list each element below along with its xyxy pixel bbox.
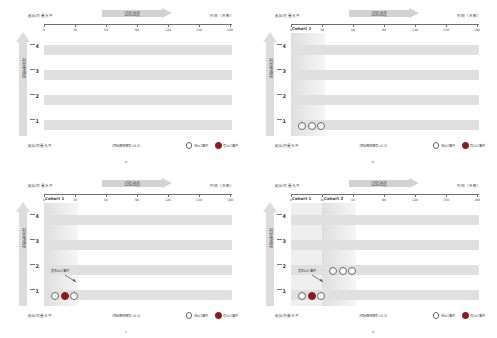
dose-tick-2: [275, 263, 283, 265]
x-tick-60: 60: [104, 28, 108, 32]
panel-a-footer-center: （目标毒性概率=0.3）: [110, 143, 142, 148]
subject-marker: [70, 292, 78, 300]
filled-circle-icon: [462, 312, 468, 318]
panel-c-letter: c: [6, 330, 246, 334]
x-tick-30: 30: [73, 28, 77, 32]
x-tick-30: 30: [320, 28, 324, 32]
panel-b-time-label: 时间（天数）: [457, 13, 481, 18]
panel-b-dose-arrow: 剂量递增: [263, 32, 277, 136]
dose-level-label-2: 2: [283, 263, 286, 269]
dose-tick-2: [28, 263, 36, 265]
dose-arrow-body: [19, 211, 27, 306]
legend-item-dlt: 有DLT事件: [215, 142, 238, 148]
panel-c-progress-arrow: 试验进度: [102, 178, 176, 189]
x-tick-60: 60: [104, 198, 108, 202]
dose-level-label-1: 1: [283, 118, 286, 124]
panel-c-plot: Cohort 1 0 30 60 90 120 150 180 1 2 3 4: [44, 194, 232, 306]
dose-level-label-3: 3: [36, 68, 39, 74]
progress-arrow-head: [162, 8, 172, 18]
dose-level-label-4: 4: [283, 213, 286, 219]
panel-b-legend: 无DLT事件 有DLT事件: [433, 142, 485, 148]
legend-item-no-dlt: 无DLT事件: [433, 312, 456, 318]
x-tick-0: 0: [290, 198, 292, 202]
x-tick-0: 0: [43, 198, 45, 202]
x-tick-90: 90: [135, 198, 139, 202]
x-tick-180: 180: [474, 28, 480, 32]
panel-a-plot: 0 30 60 90 120 150 180 1 2 3 4: [44, 24, 232, 136]
dose-level-label-3: 3: [283, 238, 286, 244]
dose-row-1: [44, 120, 232, 130]
subject-marker: [51, 292, 59, 300]
figure-sheet: 起始剂量水平 试验进度 时间（天数） 剂量递增 0 30 60 90 120 1…: [0, 0, 497, 338]
legend-label-no-dlt: 无DLT事件: [194, 143, 209, 148]
subject-marker: [339, 267, 347, 275]
progress-arrow-head: [409, 8, 419, 18]
panel-d-time-label: 时间（天数）: [457, 183, 481, 188]
dose-level-label-1: 1: [283, 288, 286, 294]
legend-item-dlt: 有DLT事件: [215, 312, 238, 318]
x-tick-150: 150: [443, 198, 449, 202]
x-tick-150: 150: [196, 28, 202, 32]
panel-a-header-left: 起始剂量水平: [28, 13, 53, 18]
subject-marker: [329, 267, 337, 275]
cohort-label-2: Cohort 2: [324, 196, 343, 201]
dose-level-label-1: 1: [36, 118, 39, 124]
x-tick-90: 90: [382, 198, 386, 202]
x-tick-120: 120: [165, 198, 171, 202]
cohort-label-1: Cohort 1: [292, 26, 311, 31]
x-tick-180: 180: [474, 198, 480, 202]
dose-row-3: [44, 70, 232, 80]
progress-arrow-head: [409, 178, 419, 188]
panel-c-footer-center: （目标毒性概率=0.3）: [110, 313, 142, 318]
subject-marker: [298, 292, 306, 300]
dose-level-label-4: 4: [36, 213, 39, 219]
subject-marker: [317, 122, 325, 130]
panel-a-progress-label: 试验进度: [102, 10, 162, 17]
dose-tick-2: [275, 93, 283, 95]
dose-row-2: [291, 95, 479, 105]
dose-row-4: [291, 45, 479, 55]
panel-c-footer-left: 起始剂量水平: [28, 313, 52, 318]
dose-tick-4: [28, 43, 36, 45]
dose-row-4: [44, 215, 232, 225]
subject-group-dose-2: [329, 267, 356, 275]
open-circle-icon: [186, 312, 192, 318]
dose-level-label-2: 2: [36, 263, 39, 269]
dose-tick-4: [275, 43, 283, 45]
x-axis: [291, 24, 479, 25]
x-tick-150: 150: [196, 198, 202, 202]
dose-level-label-2: 2: [283, 93, 286, 99]
open-circle-icon: [433, 312, 439, 318]
dlt-annotation-arrow-icon: [311, 274, 327, 284]
subject-group-dose-1: [298, 292, 325, 300]
panel-d-legend: 无DLT事件 有DLT事件: [433, 312, 485, 318]
panel-d-plot: Cohort 1 Cohort 2 0 30 60 90 120 150 180…: [291, 194, 479, 306]
x-axis: [291, 194, 479, 195]
panel-b: 起始剂量水平 试验进度 时间（天数） 剂量递增 Cohort 1 0 30 60…: [253, 6, 493, 168]
legend-item-dlt: 有DLT事件: [462, 312, 485, 318]
dose-level-label-4: 4: [283, 43, 286, 49]
legend-label-dlt: 有DLT事件: [223, 143, 238, 148]
x-tick-30: 30: [73, 198, 77, 202]
legend-label-no-dlt: 无DLT事件: [441, 143, 456, 148]
subject-marker-dlt: [308, 292, 316, 300]
progress-arrow-head: [162, 178, 172, 188]
dose-tick-3: [275, 238, 283, 240]
panel-d-footer-left: 起始剂量水平: [275, 313, 299, 318]
dose-arrow-body: [266, 211, 274, 306]
subject-marker: [308, 122, 316, 130]
dose-tick-3: [28, 68, 36, 70]
dlt-annotation-arrow-icon: [64, 274, 80, 284]
dose-tick-4: [275, 213, 283, 215]
dose-tick-1: [275, 118, 283, 120]
x-tick-0: 0: [290, 28, 292, 32]
dose-level-label-3: 3: [36, 238, 39, 244]
open-circle-icon: [433, 142, 439, 148]
dose-tick-4: [28, 213, 36, 215]
x-tick-60: 60: [351, 28, 355, 32]
panel-b-footer-left: 起始剂量水平: [275, 143, 299, 148]
dose-row-4: [291, 215, 479, 225]
panel-a-time-label: 时间（天数）: [210, 13, 234, 18]
panel-d-progress-label: 试验进度: [349, 180, 409, 187]
x-tick-120: 120: [165, 28, 171, 32]
